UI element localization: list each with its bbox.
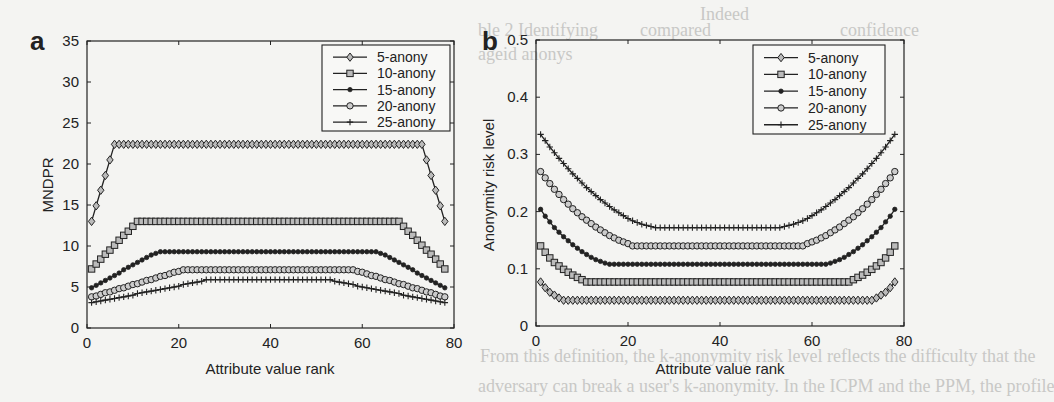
data-point [374, 250, 378, 254]
data-point [750, 262, 754, 266]
panel-label-b: b [482, 26, 498, 56]
data-point [167, 250, 171, 254]
data-point [732, 262, 736, 266]
data-point [102, 297, 108, 303]
data-point [419, 140, 425, 148]
data-point [333, 250, 337, 254]
data-point [681, 262, 685, 266]
data-point [180, 281, 186, 287]
data-point [429, 278, 433, 282]
data-point [148, 288, 154, 294]
data-point [414, 294, 420, 300]
y-tick-label: 0.5 [507, 31, 528, 48]
data-point [415, 271, 419, 275]
data-point [396, 290, 402, 296]
data-point [163, 250, 167, 254]
data-point [828, 261, 832, 265]
data-point [199, 250, 203, 254]
data-point [328, 250, 332, 254]
y-tick-label: 0.4 [507, 88, 528, 105]
data-point [617, 262, 621, 266]
data-point [143, 289, 149, 295]
data-point [209, 250, 213, 254]
data-point [140, 258, 144, 262]
data-point [126, 265, 130, 269]
x-axis-label-b: Attribute value rank [655, 360, 785, 377]
legend-marker-icon [347, 103, 353, 109]
data-point [332, 278, 338, 284]
data-point [874, 230, 878, 234]
data-point [222, 250, 226, 254]
series-line [541, 134, 895, 227]
legend-a: 5-anony10-anony15-anony20-anony25-anony [322, 45, 450, 131]
x-tick-label: 20 [170, 334, 187, 351]
legend-label: 25-anony [377, 114, 435, 130]
data-point [194, 279, 200, 285]
data-point [643, 222, 649, 228]
y-tick-label: 0 [520, 317, 528, 334]
data-point [351, 250, 355, 254]
data-point [768, 262, 772, 266]
legend-label: 15-anony [808, 83, 866, 99]
data-point [869, 196, 875, 202]
data-point [131, 263, 135, 267]
legend-b: 5-anony10-anony15-anony20-anony25-anony [753, 45, 885, 134]
data-point [663, 262, 667, 266]
data-point [134, 290, 140, 296]
data-point [537, 243, 543, 249]
data-point [360, 250, 364, 254]
data-point [94, 283, 98, 287]
data-point [149, 253, 153, 257]
data-point [354, 283, 360, 289]
data-point [420, 273, 424, 277]
data-point [204, 250, 208, 254]
data-point [547, 180, 553, 186]
data-point [323, 250, 327, 254]
legend-label: 10-anony [808, 66, 866, 82]
data-point [432, 186, 438, 194]
data-point [401, 263, 405, 267]
data-point [268, 250, 272, 254]
data-point [552, 225, 556, 229]
data-point [410, 294, 416, 300]
data-point [186, 250, 190, 254]
legend-label: 20-anony [808, 100, 866, 116]
data-point [745, 262, 749, 266]
data-point [805, 262, 809, 266]
data-point [377, 287, 383, 293]
data-point [107, 296, 113, 302]
data-point [319, 250, 323, 254]
data-point [250, 250, 254, 254]
data-point [423, 156, 429, 164]
panel-label-a: a [30, 26, 45, 56]
data-point [882, 180, 888, 186]
data-point [773, 262, 777, 266]
data-point [213, 250, 217, 254]
data-point [777, 224, 783, 230]
data-point [801, 262, 805, 266]
data-point [181, 250, 185, 254]
data-point [93, 202, 99, 210]
data-point [648, 223, 654, 229]
x-tick-label: 0 [532, 332, 540, 349]
data-point [786, 222, 792, 228]
series-a [88, 140, 448, 306]
data-point [722, 262, 726, 266]
data-point [676, 262, 680, 266]
data-point [851, 249, 855, 253]
data-point [438, 283, 442, 287]
y-tick-label: 25 [62, 114, 79, 131]
data-point [759, 262, 763, 266]
data-point [116, 294, 122, 300]
data-point [865, 239, 869, 243]
data-point [273, 250, 277, 254]
data-point [837, 257, 841, 261]
legend-marker-icon [348, 87, 352, 91]
y-tick-label: 0.1 [507, 260, 528, 277]
data-point [888, 214, 892, 218]
data-point [405, 293, 411, 299]
data-point [99, 281, 103, 285]
data-point [893, 207, 897, 211]
x-tick-label: 80 [896, 332, 913, 349]
data-point [709, 262, 713, 266]
